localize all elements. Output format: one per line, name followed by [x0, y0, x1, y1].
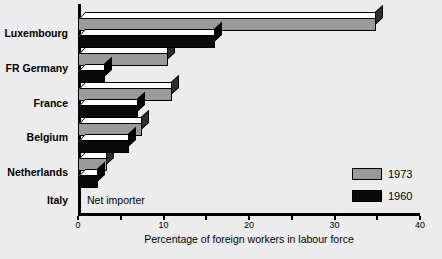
legend-item-1960[interactable]: 1960	[352, 188, 412, 203]
bar-side-face	[141, 110, 149, 130]
bar-top-face	[79, 134, 135, 141]
category-label-france: France	[0, 97, 68, 109]
bar-top-face	[79, 99, 143, 106]
category-label-fr-germany: FR Germany	[0, 62, 68, 74]
bar-fr-germany-1960[interactable]	[78, 70, 105, 83]
axis-tick-label-0: 0	[75, 220, 80, 230]
axis-tick-5	[120, 216, 122, 220]
bar-top-face	[79, 12, 381, 19]
category-label-belgium: Belgium	[0, 131, 68, 143]
axis-tick-15	[205, 216, 207, 220]
bar-top-face	[79, 29, 220, 36]
axis-tick-35	[376, 216, 378, 220]
bar-top-face	[79, 117, 147, 124]
bar-netherlands-1960[interactable]	[78, 175, 98, 188]
bar-top-face	[79, 47, 173, 54]
bar-side-face	[375, 5, 383, 25]
axis-tick-label-40: 40	[415, 220, 425, 230]
category-label-netherlands: Netherlands	[0, 166, 68, 178]
legend-item-1973[interactable]: 1973	[352, 166, 412, 181]
axis-tick-label-30: 30	[329, 220, 339, 230]
chart-figure: Luxembourg FR Germany France Belgium Net…	[0, 0, 442, 259]
legend-label-1973: 1973	[388, 168, 412, 180]
axis-tick-label-20: 20	[244, 220, 254, 230]
category-label-luxembourg: Luxembourg	[0, 27, 68, 39]
bar-side-face	[171, 75, 179, 95]
bar-luxembourg-1960[interactable]	[78, 35, 215, 48]
axis-tick-25	[291, 216, 293, 220]
legend-swatch-1960	[352, 190, 382, 202]
bar-belgium-1960[interactable]	[78, 140, 129, 153]
net-importer-note: Net importer	[87, 194, 145, 206]
axis-tick-label-10: 10	[158, 220, 168, 230]
bar-top-face	[79, 82, 177, 89]
x-axis-title: Percentage of foreign workers in labour …	[78, 233, 420, 245]
legend-label-1960: 1960	[388, 190, 412, 202]
bar-france-1960[interactable]	[78, 105, 138, 118]
legend: 1973 1960	[352, 166, 412, 210]
category-label-italy: Italy	[0, 194, 68, 206]
legend-swatch-1973	[352, 168, 382, 180]
